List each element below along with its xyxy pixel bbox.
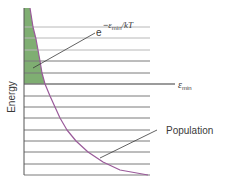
boltzmann-factor-label: e −εmin/kT [96, 20, 134, 38]
boltzmann-base: e [96, 27, 102, 38]
emin-label: εmin [178, 79, 192, 91]
svg-text:−εmin/kT: −εmin/kT [103, 20, 134, 31]
population-label: Population [166, 125, 213, 136]
population-curve-path [30, 8, 148, 175]
population-curve [30, 8, 148, 175]
energy-levels [24, 27, 175, 175]
emin-sub: min [182, 85, 192, 91]
energy-axis-label: Energy [6, 81, 17, 113]
boltzmann-kt: /kT [120, 20, 133, 30]
boltzmann-diagram: Energy e −εmin/kT εmin Population [0, 0, 228, 188]
population-leader-line [100, 130, 157, 158]
boltzmann-sub-min: min [112, 25, 122, 31]
diagram-canvas: Energy e −εmin/kT εmin Population [0, 0, 228, 188]
